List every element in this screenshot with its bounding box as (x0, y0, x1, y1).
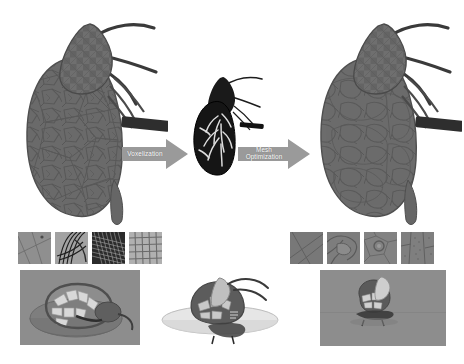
input-ureter-stub (121, 116, 168, 132)
panel-center-clipplane (150, 264, 290, 352)
optimized-lower-tail (405, 180, 417, 225)
optimized-mesh-stage (312, 12, 462, 232)
left-thumb-1 (18, 232, 51, 264)
right-thumb-4 (401, 232, 434, 264)
arrow-voxelization: Voxelization (122, 138, 188, 170)
optimized-ureter-stub (415, 116, 462, 132)
arrow-mesh-optimization: Mesh Optimization (238, 138, 310, 170)
right-thumb-3 (364, 232, 397, 264)
left-thumb-2 (55, 232, 88, 264)
panel-right-cutaway (320, 270, 446, 346)
arrow-mesh-optimization-label: Mesh Optimization (240, 146, 288, 161)
voxel-ureter-stub (240, 122, 264, 129)
right-thumb-1 (290, 232, 323, 264)
optimized-kidney-mesh (312, 12, 462, 232)
right-thumb-2 (327, 232, 360, 264)
input-mesh-stage (18, 12, 168, 232)
left-thumb-4 (129, 232, 162, 264)
pipeline-figure: Voxelization (0, 0, 464, 364)
panel-left-cutaway (20, 270, 140, 345)
left-thumb-3 (92, 232, 125, 264)
arrow-voxelization-label: Voxelization (124, 150, 166, 157)
input-lower-tail (111, 180, 123, 225)
input-kidney-mesh (18, 12, 168, 232)
